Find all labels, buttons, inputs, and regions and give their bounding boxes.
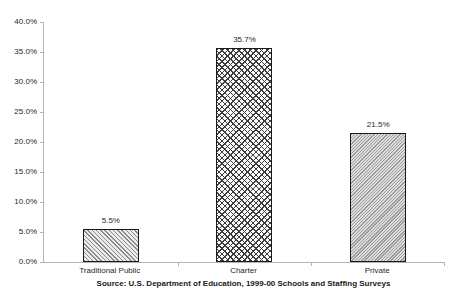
y-axis-tick-label: 20.0% (0, 137, 37, 147)
category-slot-traditional-public: 5.5% (44, 22, 178, 262)
y-axis-tick-label: 25.0% (0, 107, 37, 117)
category-slot-charter: 35.7% (178, 22, 312, 262)
category-slot-private: 21.5% (311, 22, 445, 262)
x-axis-tick (444, 263, 445, 266)
y-axis-tick-label: 5.0% (0, 227, 37, 237)
bar-chart: 5.5%35.7%21.5% 0.0%5.0%10.0%15.0%20.0%25… (0, 0, 451, 295)
bar-charter (216, 48, 272, 262)
y-axis-tick-label: 40.0% (0, 17, 37, 27)
value-label-charter: 35.7% (178, 35, 312, 45)
y-axis-tick-label: 15.0% (0, 167, 37, 177)
x-axis-category-label-private: Private (310, 266, 444, 276)
value-label-private: 21.5% (311, 120, 445, 130)
value-label-traditional-public: 5.5% (44, 216, 178, 226)
plot-area: 5.5%35.7%21.5% (43, 22, 445, 263)
x-axis-category-label-charter: Charter (177, 266, 311, 276)
x-axis-category-label-traditional-public: Traditional Public (43, 266, 177, 276)
y-axis-tick-label: 35.0% (0, 47, 37, 57)
bar-private (350, 133, 406, 262)
y-axis-tick-label: 30.0% (0, 77, 37, 87)
source-note: Source: U.S. Department of Education, 19… (43, 279, 444, 289)
bar-traditional-public (83, 229, 139, 262)
y-axis-tick-label: 10.0% (0, 197, 37, 207)
y-axis-tick-label: 0.0% (0, 257, 37, 267)
